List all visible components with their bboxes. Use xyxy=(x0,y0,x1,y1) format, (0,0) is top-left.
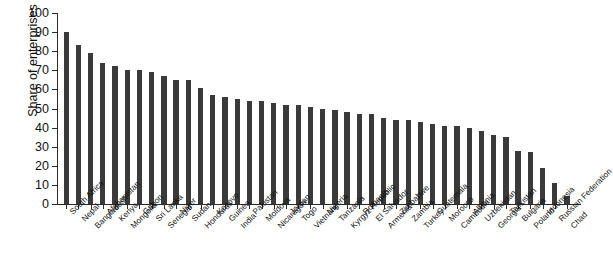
y-tick-mark xyxy=(52,185,57,186)
y-tick-label: 90 xyxy=(0,25,57,39)
y-tick-mark xyxy=(52,128,57,129)
y-tick-label: 10 xyxy=(0,178,57,192)
bar xyxy=(235,99,240,204)
bar xyxy=(247,101,252,204)
bar xyxy=(332,110,337,204)
bar xyxy=(88,53,93,204)
y-tick-label: 80 xyxy=(0,44,57,58)
bar xyxy=(173,80,178,204)
bar xyxy=(186,80,191,204)
y-tick-label: 60 xyxy=(0,82,57,96)
bar xyxy=(222,97,227,204)
bar xyxy=(64,32,69,204)
y-tick-mark xyxy=(52,13,57,14)
y-tick-mark xyxy=(52,89,57,90)
bar xyxy=(467,128,472,204)
y-tick-mark xyxy=(52,70,57,71)
bar xyxy=(296,105,301,204)
bar xyxy=(149,72,154,204)
bar xyxy=(161,76,166,204)
y-tick-mark xyxy=(52,109,57,110)
y-tick-label: 70 xyxy=(0,63,57,77)
bar xyxy=(320,109,325,205)
bar xyxy=(442,126,447,204)
y-tick-label: 30 xyxy=(0,140,57,154)
y-tick-label: 50 xyxy=(0,102,57,116)
bar xyxy=(112,66,117,204)
y-tick-label: 0 xyxy=(0,197,57,211)
bar xyxy=(283,105,288,204)
y-tick-label: 20 xyxy=(0,159,57,173)
bar xyxy=(76,45,81,204)
y-tick-mark xyxy=(52,147,57,148)
bar xyxy=(479,131,484,204)
bar xyxy=(198,88,203,205)
y-tick-mark xyxy=(52,166,57,167)
y-tick-mark xyxy=(52,51,57,52)
bar xyxy=(357,114,362,204)
bar xyxy=(430,124,435,204)
bar xyxy=(344,112,349,204)
y-tick-label: 40 xyxy=(0,121,57,135)
x-axis-labels: South AfricaNepalBangladeshAfghanistanKe… xyxy=(57,204,581,278)
plot-area: 0102030405060708090100 xyxy=(57,13,581,204)
y-tick-label: 100 xyxy=(0,6,57,20)
y-tick-mark xyxy=(52,32,57,33)
bar xyxy=(210,95,215,204)
y-axis-line xyxy=(57,13,58,204)
bar xyxy=(308,107,313,204)
bar xyxy=(369,114,374,204)
bar xyxy=(259,101,264,204)
